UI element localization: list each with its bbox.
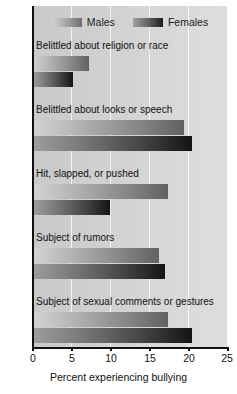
x-tick-20 <box>188 347 190 351</box>
x-axis-line <box>32 347 228 349</box>
bar-females-4 <box>32 328 192 343</box>
x-tick-label-10: 10 <box>105 352 117 364</box>
bar-males-3 <box>32 248 159 263</box>
category-label-4: Subject of sexual comments or gestures <box>36 296 214 308</box>
bar-males-2 <box>32 184 168 199</box>
bar-males-1 <box>32 120 184 135</box>
bar-females-3 <box>32 264 165 279</box>
legend-label-females: Females <box>168 17 208 28</box>
legend-label-males: Males <box>87 17 115 28</box>
x-tick-25 <box>227 347 229 351</box>
x-tick-5 <box>71 347 73 351</box>
bar-females-2 <box>32 200 110 215</box>
plot-area: Males Females Belittled about religion o… <box>32 6 228 347</box>
category-label-0: Belittled about religion or race <box>36 40 168 52</box>
x-tick-10 <box>110 347 112 351</box>
legend-swatch-males-icon <box>52 18 82 27</box>
category-group-2: Hit, slapped, or pushed <box>32 168 228 232</box>
x-tick-15 <box>149 347 151 351</box>
x-tick-label-0: 0 <box>30 352 36 364</box>
category-group-1: Belittled about looks or speech <box>32 104 228 168</box>
x-tick-label-20: 20 <box>183 352 195 364</box>
bar-females-1 <box>32 136 192 151</box>
x-axis-title: Percent experiencing bullying <box>0 371 237 383</box>
category-group-3: Subject of rumors <box>32 232 228 296</box>
legend-entry-females: Females <box>133 17 208 28</box>
bar-chart: Males Females Belittled about religion o… <box>0 0 237 394</box>
legend: Males Females <box>32 14 228 30</box>
category-label-3: Subject of rumors <box>36 232 114 244</box>
legend-entry-males: Males <box>52 17 115 28</box>
legend-swatch-females-icon <box>133 18 163 27</box>
category-group-0: Belittled about religion or race <box>32 40 228 104</box>
bar-females-0 <box>32 72 73 87</box>
y-axis-line <box>32 6 34 348</box>
category-group-4: Subject of sexual comments or gestures <box>32 296 228 347</box>
x-tick-label-15: 15 <box>144 352 156 364</box>
category-label-1: Belittled about looks or speech <box>36 104 172 116</box>
x-tick-label-5: 5 <box>69 352 75 364</box>
x-tick-0 <box>32 347 34 351</box>
category-label-2: Hit, slapped, or pushed <box>36 168 139 180</box>
bar-males-4 <box>32 312 168 327</box>
x-tick-label-25: 25 <box>221 352 233 364</box>
bar-males-0 <box>32 56 89 71</box>
